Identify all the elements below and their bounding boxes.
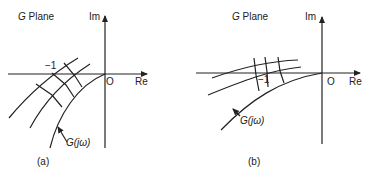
plane-label-a: G Plane — [18, 12, 54, 22]
origin-label-a: O — [106, 77, 114, 87]
panel-b — [196, 17, 360, 144]
plane-prefix-a: G — [18, 11, 26, 22]
caption-b: (b) — [248, 157, 260, 167]
panel-a — [8, 16, 147, 148]
diagram-canvas — [0, 0, 370, 173]
im-label-a: Im — [89, 12, 100, 22]
minus-one-label-a: −1 — [45, 61, 56, 71]
grid-curve-mid-b — [208, 67, 301, 95]
plane-label-b: G Plane — [232, 12, 268, 22]
plane-text-a: Plane — [29, 11, 55, 22]
origin-label-b: O — [327, 77, 335, 87]
im-label-b: Im — [305, 12, 316, 22]
plane-text-b: Plane — [243, 11, 269, 22]
g-curve-b — [221, 73, 322, 130]
plane-prefix-b: G — [232, 11, 240, 22]
re-label-a: Re — [135, 77, 148, 87]
grid-cross-1-a — [36, 84, 62, 107]
grid-cross-3-a — [64, 63, 82, 87]
minus-one-label-b: −1 — [258, 75, 269, 85]
g-jw-label-a: G(jω) — [66, 138, 90, 148]
re-label-b: Re — [349, 77, 362, 87]
caption-a: (a) — [37, 157, 49, 167]
g-jw-label-b: G(jω) — [240, 116, 264, 126]
